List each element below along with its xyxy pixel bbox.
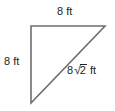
geometry-figure: 8 ft 8 ft 8√2 ft [0, 0, 115, 111]
top-side-length-label: 8 ft [57, 5, 72, 17]
left-side-length-label: 8 ft [4, 55, 19, 67]
radical-group: √2 [73, 64, 87, 76]
hypotenuse-unit: ft [87, 64, 96, 76]
hypotenuse-length-label: 8√2 ft [67, 64, 96, 76]
radicand-value: 2 [80, 64, 87, 76]
